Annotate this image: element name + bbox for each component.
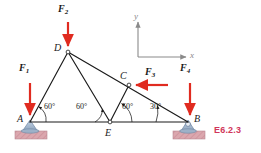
force-label-F1: F1 [19, 63, 29, 73]
force-label-F2-symbol: F [58, 3, 65, 14]
joint-C [127, 83, 131, 87]
angle-label-at-E-left: 60° [76, 103, 87, 111]
node-label-A: A [17, 114, 23, 124]
node-label-D: D [54, 43, 61, 53]
angle-label-at-E-right: 60° [122, 103, 133, 111]
x-axis-label: x [190, 51, 194, 60]
force-label-F4-symbol: F [180, 62, 187, 73]
arc-at-E-left [95, 109, 102, 122]
force-label-F3: F3 [145, 67, 155, 77]
angle-label-at-B: 30° [150, 103, 161, 111]
force-label-F4: F4 [180, 63, 190, 73]
force-label-F3-subscript: 3 [152, 71, 156, 79]
angle-label-at-A: 60° [44, 103, 55, 111]
force-label-F4-subscript: 4 [187, 67, 191, 75]
joint-D [66, 50, 70, 54]
y-axis-label: y [134, 12, 138, 21]
force-label-F1-symbol: F [19, 62, 26, 73]
joint-E [108, 120, 112, 124]
angle-arcs [39, 104, 158, 122]
truss-members [30, 52, 188, 122]
node-label-E: E [105, 128, 111, 138]
figure-container: A D E C B F1 F2 F3 F4 60° 60° 60° 30° y … [0, 0, 261, 153]
force-label-F1-subscript: 1 [26, 67, 30, 75]
force-label-F2-subscript: 2 [65, 8, 69, 16]
figure-id-label: E6.2.3 [214, 125, 241, 135]
coordinate-axes [138, 22, 186, 57]
node-label-B: B [194, 114, 200, 124]
joints [66, 50, 131, 124]
member-D-E [68, 52, 110, 122]
force-label-F3-symbol: F [145, 66, 152, 77]
force-label-F2: F2 [58, 4, 68, 14]
node-label-C: C [120, 71, 127, 81]
member-A-D [30, 52, 68, 122]
